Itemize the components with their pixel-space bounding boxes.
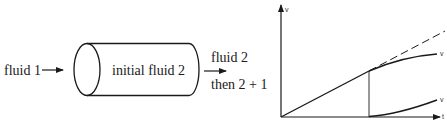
lower-curve-label: v [440, 96, 444, 104]
diagram-canvas [0, 0, 447, 123]
y-axis-label: v [285, 6, 289, 14]
upper-curve [369, 54, 437, 71]
graph-curves [281, 31, 445, 117]
graph-axes [281, 5, 440, 117]
lower-curve [369, 100, 437, 117]
x-axis-label: t [442, 113, 444, 121]
tube-cylinder [74, 44, 199, 96]
dashed-extrapolation [369, 31, 445, 71]
initial-linear-segment [281, 71, 369, 117]
tube-outlet-end [189, 44, 199, 96]
upper-curve-label: v [440, 50, 444, 58]
tube-inlet-face [74, 44, 100, 96]
